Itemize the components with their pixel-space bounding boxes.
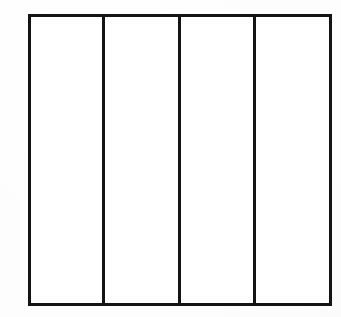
panel-4 bbox=[256, 17, 329, 303]
panel-3 bbox=[181, 17, 253, 303]
panel-2 bbox=[105, 17, 178, 303]
drawing-canvas bbox=[0, 0, 341, 317]
panel-1 bbox=[31, 17, 102, 303]
